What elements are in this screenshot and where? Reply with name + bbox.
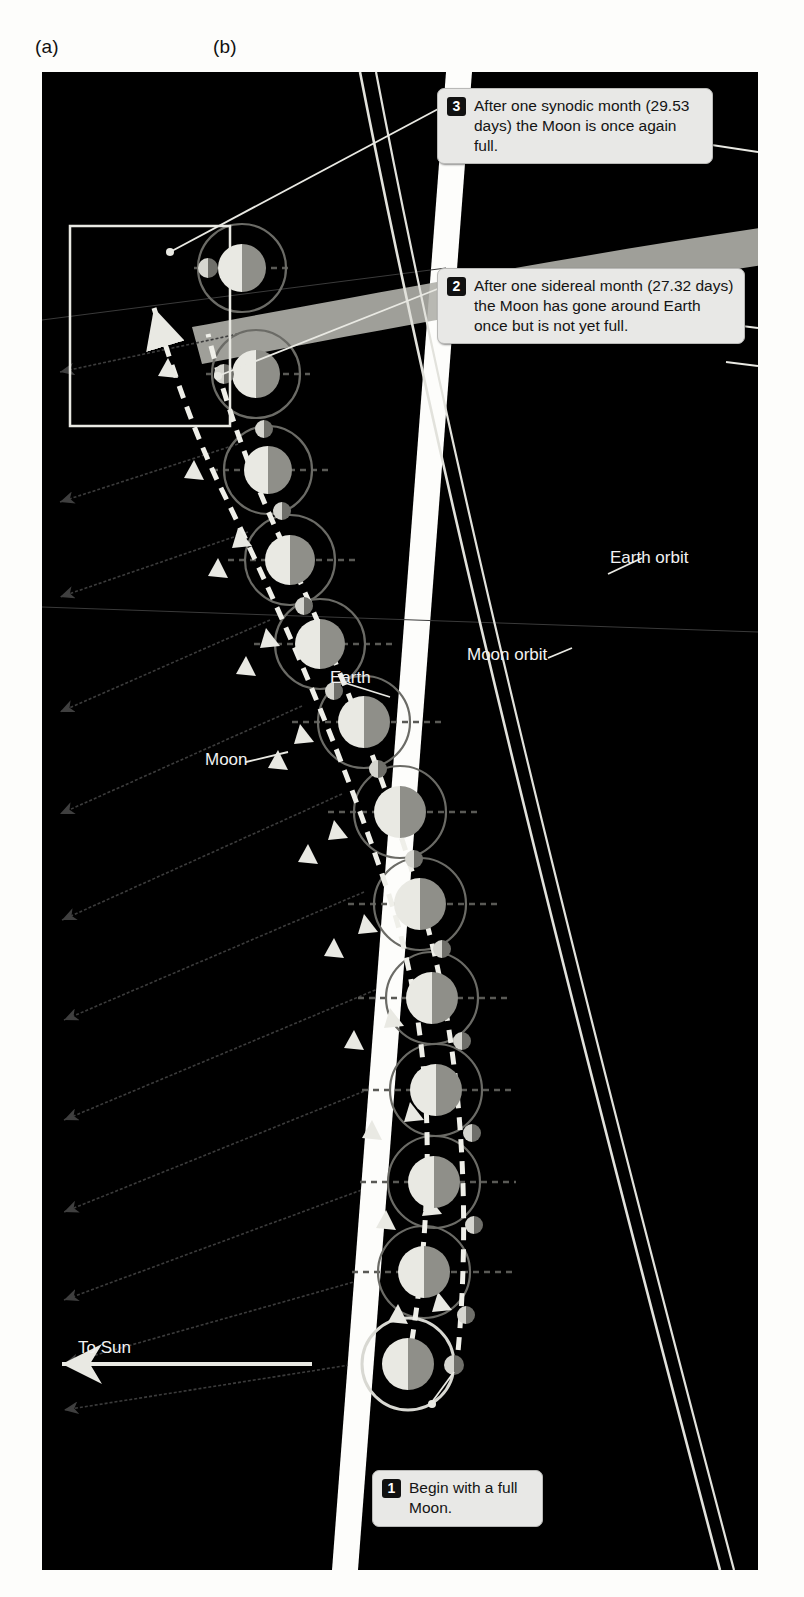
earth-sphere: [232, 350, 280, 398]
callout-1: 1 Begin with a full Moon.: [372, 1470, 543, 1527]
moon-sphere: [369, 760, 387, 778]
callout-2-number: 2: [447, 277, 466, 296]
earth-sphere: [244, 446, 292, 494]
label-earth-orbit: Earth orbit: [610, 548, 688, 568]
earth-sphere: [398, 1246, 450, 1298]
moon-sphere: [295, 597, 313, 615]
earth-sphere: [218, 244, 266, 292]
earth-sphere: [374, 786, 426, 838]
callout-1-number: 1: [382, 1479, 401, 1498]
earth-sphere: [394, 878, 446, 930]
panel-label-b: (b): [213, 36, 237, 58]
earth-sphere: [408, 1156, 460, 1208]
moon-sphere: [273, 502, 291, 520]
moon-sphere: [457, 1306, 475, 1324]
earth-sphere: [338, 696, 390, 748]
callout-2: 2 After one sidereal month (27.32 days) …: [437, 268, 745, 344]
moon-sphere: [255, 420, 273, 438]
earth-sphere: [265, 535, 315, 585]
earth-sphere: [295, 619, 345, 669]
moon-sphere: [433, 940, 451, 958]
moon-sphere: [463, 1124, 481, 1142]
earth-sphere: [406, 972, 458, 1024]
label-earth: Earth: [330, 668, 371, 688]
earth-sphere: [410, 1064, 462, 1116]
label-moon: Moon: [205, 750, 248, 770]
earth-sphere: [382, 1338, 434, 1390]
panel-label-a: (a): [35, 36, 59, 58]
callout-3: 3 After one synodic month (29.53 days) t…: [437, 88, 713, 164]
callout-3-text: After one synodic month (29.53 days) the…: [474, 96, 702, 155]
moon-sphere: [465, 1216, 483, 1234]
label-to-sun: To Sun: [78, 1338, 131, 1358]
callout-3-number: 3: [447, 97, 466, 116]
callout-2-text: After one sidereal month (27.32 days) th…: [474, 276, 734, 335]
moon-sphere: [198, 258, 218, 278]
callout-1-text: Begin with a full Moon.: [409, 1478, 532, 1518]
label-moon-orbit: Moon orbit: [467, 645, 547, 665]
figure-root: (a) (b): [0, 0, 804, 1597]
moon-sphere: [405, 850, 423, 868]
moon-sphere: [453, 1032, 471, 1050]
